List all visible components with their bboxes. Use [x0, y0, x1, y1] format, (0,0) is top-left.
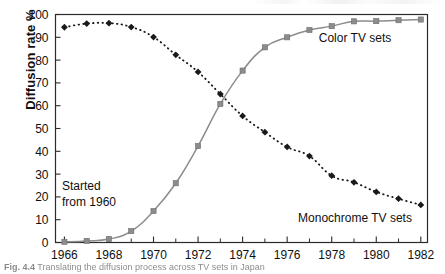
- data-point-marker: Color TV sets 1976: 90%: [285, 35, 290, 40]
- y-tick-label: 30: [35, 168, 49, 182]
- data-point-marker: Color TV sets 1979: 97%: [351, 19, 356, 24]
- data-point-marker: Color TV sets 1971: 26%: [173, 181, 178, 186]
- caption-label: Fig. 4.4: [4, 262, 35, 272]
- y-tick-label: 60: [35, 99, 49, 113]
- y-tick-label: 70: [35, 76, 49, 90]
- data-point-marker: Color TV sets 1970: 13.8%: [151, 208, 156, 213]
- data-point-marker: Color TV sets 1977: 93.2%: [307, 27, 312, 32]
- annotation-color-tv-label: Color TV sets: [319, 31, 391, 45]
- y-tick-label: 40: [35, 145, 49, 159]
- data-point-marker: Color TV sets 1975: 85.6%: [262, 45, 267, 50]
- x-tick-label: 1980: [363, 248, 390, 262]
- data-point-marker: Color TV sets 1969: 5%: [129, 229, 134, 234]
- y-tick-label: 80: [35, 54, 49, 68]
- diffusion-rate-chart: 0102030405060708090100 19661968197019721…: [0, 0, 445, 274]
- x-tick-label: 1976: [274, 248, 301, 262]
- x-tick-label: 1966: [51, 248, 78, 262]
- x-tick-label: 1982: [407, 248, 434, 262]
- data-point-marker: Color TV sets 1966: 0.3%: [62, 239, 67, 244]
- annotation-started-line2: from 1960: [62, 195, 116, 209]
- x-tick-label: 1978: [318, 248, 345, 262]
- x-tick-label: 1970: [140, 248, 167, 262]
- data-point-marker: Color TV sets 1973: 60.8%: [218, 101, 223, 106]
- x-tick-label: 1968: [96, 248, 123, 262]
- y-tick-label: 20: [35, 190, 49, 204]
- y-tick-label: 0: [42, 236, 49, 250]
- data-point-marker: Color TV sets 1974: 75.4%: [240, 68, 245, 73]
- data-point-marker: Color TV sets 1982: 97.8%: [418, 17, 423, 22]
- y-tick-label: 50: [35, 122, 49, 136]
- x-tick-label: 1972: [185, 248, 212, 262]
- figure-container: Diffusion rate % 0102030405060708090100 …: [0, 0, 445, 274]
- annotation-started-line1: Started: [62, 179, 101, 193]
- caption-text: Translating the diffusion process across…: [37, 262, 264, 272]
- annotation-monochrome-tv-label: Monochrome TV sets: [298, 211, 412, 225]
- y-tick-label: 100: [28, 8, 48, 22]
- x-tick-label: 1974: [229, 248, 256, 262]
- data-point-marker: Color TV sets 1972: 42.3%: [195, 143, 200, 148]
- data-point-marker: Color TV sets 1968: 1.5%: [106, 236, 111, 241]
- figure-caption: Fig. 4.4 Translating the diffusion proce…: [4, 262, 444, 274]
- data-point-marker: Color TV sets 1967: 0.7%: [84, 238, 89, 243]
- data-point-marker: Color TV sets 1981: 97.5%: [396, 18, 401, 23]
- y-tick-label: 90: [35, 31, 49, 45]
- data-point-marker: Color TV sets 1978: 94.9%: [329, 24, 334, 29]
- data-point-marker: Color TV sets 1980: 97.1%: [374, 19, 379, 24]
- y-tick-label: 10: [35, 213, 49, 227]
